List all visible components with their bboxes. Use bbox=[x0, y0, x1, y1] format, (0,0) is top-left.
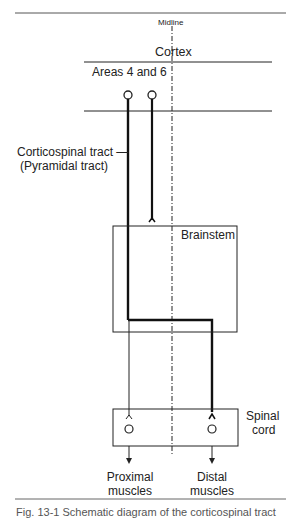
tract-label: Corticospinal tract — bbox=[17, 145, 128, 159]
cortical-neuron-left bbox=[124, 91, 132, 99]
spinal-label: Spinal bbox=[246, 409, 279, 423]
motor-neuron-proximal bbox=[125, 425, 133, 433]
proximal-arrow-icon bbox=[126, 458, 132, 464]
terminal-left-icon bbox=[126, 415, 132, 419]
proximal-sublabel: muscles bbox=[105, 484, 155, 498]
distal-label: Distal bbox=[187, 470, 237, 484]
cortical-neuron-right bbox=[148, 91, 156, 99]
tract-sublabel: (Pyramidal tract) bbox=[20, 159, 108, 173]
terminal-right-icon bbox=[209, 414, 215, 419]
spinal-sublabel: cord bbox=[252, 423, 275, 437]
cortex-label: Cortex bbox=[155, 45, 192, 59]
proximal-label: Proximal bbox=[105, 470, 155, 484]
motor-neuron-distal bbox=[208, 425, 216, 433]
areas-label: Areas 4 and 6 bbox=[92, 65, 167, 79]
midline-label: Midline bbox=[158, 16, 183, 30]
decussation-path bbox=[128, 320, 212, 412]
brainstem-label: Brainstem bbox=[181, 228, 235, 242]
distal-sublabel: muscles bbox=[187, 484, 237, 498]
figure-caption: Fig. 13-1 Schematic diagram of the corti… bbox=[16, 505, 276, 519]
distal-arrow-icon bbox=[209, 458, 215, 464]
